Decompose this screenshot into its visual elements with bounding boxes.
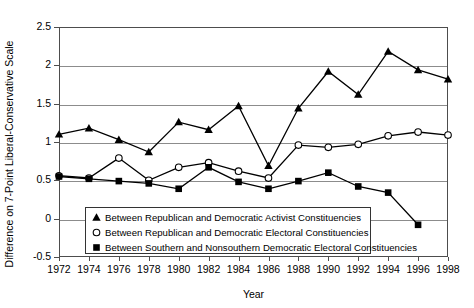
x-axis-title: Year: [59, 288, 448, 300]
y-axis-title: Difference on 7-Point Liberal-Conservati…: [0, 0, 18, 308]
series-marker-open-circle: [116, 155, 123, 162]
x-axis-tick-label: 1998: [432, 263, 464, 275]
series-marker-filled-triangle: [384, 47, 392, 54]
series-marker-filled-triangle: [234, 102, 242, 109]
x-axis-tick-mark: [358, 257, 359, 261]
x-axis-tick-mark: [149, 257, 150, 261]
x-axis-tick-mark: [269, 257, 270, 261]
x-axis-tick-label: 1980: [163, 263, 195, 275]
x-axis-tick-label: 1982: [193, 263, 225, 275]
y-axis-tick-label: 1: [45, 135, 51, 147]
x-axis-tick-label: 1990: [312, 263, 344, 275]
series-marker-open-circle: [175, 164, 182, 171]
series-marker-open-circle: [415, 129, 422, 136]
series-marker-filled-triangle: [174, 118, 182, 125]
x-axis-tick-label: 1992: [342, 263, 374, 275]
x-axis-tick-label: 1972: [43, 263, 75, 275]
y-axis-tick-label: 2.5: [36, 20, 51, 32]
series-marker-filled-triangle: [264, 162, 272, 169]
series-marker-filled-square: [175, 185, 182, 192]
series-marker-filled-square: [145, 180, 152, 187]
chart-legend: Between Republican and Democratic Activi…: [85, 207, 371, 254]
series-marker-filled-square: [116, 178, 123, 185]
x-axis-tick-mark: [119, 257, 120, 261]
series-marker-filled-square: [355, 183, 362, 190]
legend-item: Between Southern and Nonsouthern Democra…: [90, 240, 366, 255]
y-axis-tick-label: 1.5: [36, 97, 51, 109]
x-axis-tick-mark: [298, 257, 299, 261]
series-marker-filled-square: [205, 164, 212, 171]
x-axis-tick-label: 1984: [223, 263, 255, 275]
legend-item-label: Between Southern and Nonsouthern Democra…: [105, 242, 417, 253]
legend-item-label: Between Republican and Democratic Activi…: [105, 212, 361, 223]
legend-marker-filled-triangle-icon: [90, 211, 103, 224]
series-marker-open-circle: [265, 175, 272, 182]
x-axis-tick-label: 1986: [253, 263, 285, 275]
y-axis-tick-label: 2: [45, 58, 51, 70]
series-marker-open-circle: [445, 132, 452, 139]
y-axis-tick-label: 0: [45, 212, 51, 224]
y-axis-tick-label: -0.5: [33, 250, 51, 262]
series-marker-filled-square: [235, 179, 242, 186]
series-marker-open-circle: [295, 142, 302, 149]
x-axis-tick-mark: [448, 257, 449, 261]
x-axis-tick-label: 1974: [73, 263, 105, 275]
series-line: [59, 52, 448, 166]
series-marker-filled-square: [86, 176, 93, 183]
series-marker-filled-square: [415, 222, 422, 229]
x-axis-tick-mark: [388, 257, 389, 261]
y-axis-tick-label: 0.5: [36, 173, 51, 185]
series-marker-filled-square: [325, 169, 332, 176]
legend-item-label: Between Republican and Democratic Electo…: [105, 227, 368, 238]
series-marker-open-circle: [325, 144, 332, 151]
x-axis-tick-label: 1978: [133, 263, 165, 275]
x-axis-tick-mark: [239, 257, 240, 261]
series-marker-filled-triangle: [414, 66, 422, 73]
x-axis-tick-mark: [89, 257, 90, 261]
x-axis-tick-mark: [179, 257, 180, 261]
series-marker-filled-triangle: [85, 124, 93, 131]
series-marker-open-circle: [235, 168, 242, 175]
series-marker-filled-triangle: [354, 90, 362, 97]
legend-marker-filled-square-icon: [90, 241, 103, 254]
x-axis-tick-label: 1996: [402, 263, 434, 275]
series-marker-filled-square: [265, 185, 272, 192]
chart-container: Difference on 7-Point Liberal-Conservati…: [0, 0, 474, 308]
series-marker-filled-triangle: [324, 67, 332, 74]
legend-item: Between Republican and Democratic Electo…: [90, 225, 366, 240]
legend-item: Between Republican and Democratic Activi…: [90, 210, 366, 225]
x-axis-tick-label: 1976: [103, 263, 135, 275]
x-axis-tick-mark: [328, 257, 329, 261]
series-marker-open-circle: [385, 133, 392, 140]
x-axis-tick-mark: [59, 257, 60, 261]
x-axis-tick-label: 1988: [282, 263, 314, 275]
x-axis-tick-label: 1994: [372, 263, 404, 275]
legend-marker-open-circle-icon: [90, 226, 103, 239]
series-marker-filled-square: [385, 189, 392, 196]
series-marker-filled-square: [295, 178, 302, 185]
series-marker-filled-square: [56, 173, 63, 180]
series-marker-open-circle: [355, 141, 362, 148]
x-axis-tick-mark: [418, 257, 419, 261]
x-axis-tick-mark: [209, 257, 210, 261]
